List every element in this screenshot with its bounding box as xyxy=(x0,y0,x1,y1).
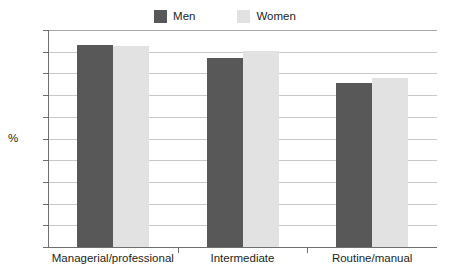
x-axis-tick-label: Intermediate xyxy=(178,252,308,265)
chart-legend: Men Women xyxy=(0,6,450,26)
x-axis-line xyxy=(48,247,437,248)
y-axis-title: % xyxy=(8,133,18,145)
bar-men-2 xyxy=(336,83,372,247)
bar-women-2 xyxy=(372,78,408,247)
bar-women-1 xyxy=(243,51,279,247)
x-axis-tick-label: Managerial/professional xyxy=(48,252,178,265)
legend-item-men: Men xyxy=(154,10,195,23)
bars-layer xyxy=(48,30,437,248)
x-axis-tick-label: Routine/manual xyxy=(307,252,437,265)
legend-item-women: Women xyxy=(237,10,295,23)
legend-label-women: Women xyxy=(256,10,295,23)
bar-chart: Men Women % 1009080706050403020100 Manag… xyxy=(0,0,450,273)
category-tick xyxy=(307,248,308,253)
legend-swatch-men xyxy=(154,10,167,23)
bar-men-0 xyxy=(77,45,113,247)
plot-area xyxy=(48,30,437,248)
bar-men-1 xyxy=(207,58,243,247)
category-tick xyxy=(178,248,179,253)
legend-swatch-women xyxy=(237,10,250,23)
bar-women-0 xyxy=(113,46,149,247)
legend-label-men: Men xyxy=(173,10,195,23)
